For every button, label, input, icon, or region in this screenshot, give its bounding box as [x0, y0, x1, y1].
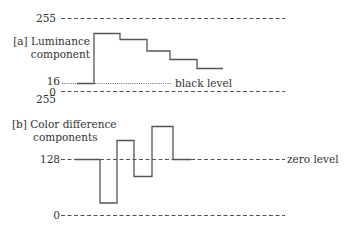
- color-difference-waveform: [75, 127, 191, 204]
- diagram-canvas: [0, 0, 350, 232]
- luminance-waveform: [77, 34, 223, 84]
